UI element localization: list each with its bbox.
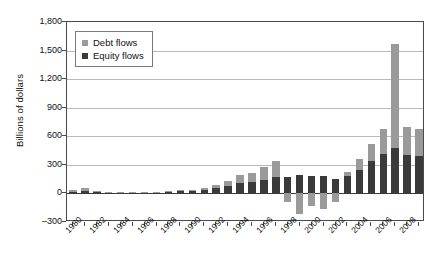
bar-segment-equity-flows bbox=[248, 182, 255, 193]
bar-group bbox=[236, 22, 243, 220]
bar-segment-equity-flows bbox=[212, 188, 219, 193]
bar-segment-debt-flows bbox=[177, 190, 184, 191]
y-tick-label: 300 bbox=[18, 159, 62, 168]
bar-segment-equity-flows bbox=[332, 179, 339, 194]
y-tick-label: 1,500 bbox=[18, 45, 62, 54]
bar-group bbox=[320, 22, 327, 220]
y-tick-mark bbox=[62, 21, 66, 22]
bar-segment-debt-flows bbox=[403, 127, 410, 156]
bar-segment-debt-flows bbox=[380, 129, 387, 154]
bar-segment-debt-flows bbox=[248, 173, 255, 182]
bar-group bbox=[403, 22, 410, 220]
bar-segment-debt-flows bbox=[284, 193, 291, 202]
y-tick-mark bbox=[62, 221, 66, 222]
chart-legend: Debt flows Equity flows bbox=[75, 31, 153, 67]
bar-segment-equity-flows bbox=[224, 186, 231, 194]
legend-item-debt-flows: Debt flows bbox=[82, 36, 144, 49]
bar-segment-equity-flows bbox=[380, 154, 387, 194]
bar-segment-equity-flows bbox=[368, 161, 375, 193]
bar-group bbox=[415, 22, 422, 220]
bar-group bbox=[165, 22, 172, 220]
bar-segment-debt-flows bbox=[320, 193, 327, 209]
bar-group bbox=[380, 22, 387, 220]
bar-segment-debt-flows bbox=[141, 192, 148, 193]
bar-segment-debt-flows bbox=[117, 192, 124, 193]
legend-label-equity-flows: Equity flows bbox=[93, 51, 144, 61]
bar-group bbox=[308, 22, 315, 220]
bar-segment-equity-flows bbox=[403, 155, 410, 193]
bar-segment-debt-flows bbox=[93, 191, 100, 192]
y-tick-mark bbox=[62, 50, 66, 51]
bar-segment-equity-flows bbox=[177, 191, 184, 193]
bar-group bbox=[177, 22, 184, 220]
bar-segment-equity-flows bbox=[320, 176, 327, 193]
y-tick-mark bbox=[62, 164, 66, 165]
bar-segment-debt-flows bbox=[105, 192, 112, 193]
bar-segment-debt-flows bbox=[296, 193, 303, 213]
y-tick-mark bbox=[62, 135, 66, 136]
bar-segment-debt-flows bbox=[272, 161, 279, 177]
bar-segment-debt-flows bbox=[129, 192, 136, 193]
legend-swatch-debt-flows bbox=[82, 40, 88, 46]
bar-group bbox=[356, 22, 363, 220]
bar-segment-equity-flows bbox=[308, 176, 315, 194]
y-tick-mark bbox=[62, 192, 66, 193]
bar-group bbox=[224, 22, 231, 220]
bar-segment-equity-flows bbox=[391, 148, 398, 193]
bar-segment-debt-flows bbox=[260, 167, 267, 179]
y-tick-label: 900 bbox=[18, 102, 62, 111]
bar-segment-equity-flows bbox=[284, 177, 291, 194]
y-tick-label: 0 bbox=[18, 188, 62, 197]
bar-group bbox=[332, 22, 339, 220]
bar-segment-equity-flows bbox=[296, 175, 303, 194]
bar-segment-equity-flows bbox=[93, 192, 100, 194]
bar-group bbox=[284, 22, 291, 220]
bar-segment-equity-flows bbox=[189, 191, 196, 194]
bar-group bbox=[260, 22, 267, 220]
bar-segment-equity-flows bbox=[272, 177, 279, 194]
legend-label-debt-flows: Debt flows bbox=[93, 38, 137, 48]
bar-segment-equity-flows bbox=[81, 191, 88, 194]
bar-segment-debt-flows bbox=[189, 190, 196, 191]
y-tick-mark bbox=[62, 78, 66, 79]
bar-segment-equity-flows bbox=[236, 183, 243, 193]
bar-segment-equity-flows bbox=[69, 192, 76, 194]
bar-group bbox=[296, 22, 303, 220]
bar-segment-debt-flows bbox=[308, 193, 315, 205]
bar-group bbox=[189, 22, 196, 220]
bar-segment-debt-flows bbox=[212, 185, 219, 188]
bar-segment-debt-flows bbox=[236, 175, 243, 183]
bar-segment-equity-flows bbox=[165, 192, 172, 194]
chart-figure: Billions of dollars 1,8001,5001,20090060… bbox=[0, 0, 438, 264]
bar-segment-equity-flows bbox=[415, 156, 422, 193]
bar-group bbox=[248, 22, 255, 220]
bar-group bbox=[368, 22, 375, 220]
y-axis-tick-labels: 1,8001,5001,2009006003000–300 bbox=[16, 0, 62, 264]
bar-segment-equity-flows bbox=[356, 170, 363, 194]
bar-segment-debt-flows bbox=[415, 129, 422, 157]
bar-group bbox=[153, 22, 160, 220]
bar-segment-debt-flows bbox=[69, 190, 76, 191]
bar-segment-equity-flows bbox=[201, 190, 208, 193]
bar-segment-debt-flows bbox=[224, 181, 231, 186]
y-tick-label: 1,200 bbox=[18, 74, 62, 83]
bar-group bbox=[391, 22, 398, 220]
y-tick-label: 600 bbox=[18, 131, 62, 140]
y-tick-label: 1,800 bbox=[18, 17, 62, 26]
y-tick-mark bbox=[62, 107, 66, 108]
bar-group bbox=[344, 22, 351, 220]
bar-segment-debt-flows bbox=[165, 191, 172, 192]
bar-group bbox=[201, 22, 208, 220]
bar-group bbox=[212, 22, 219, 220]
bar-segment-debt-flows bbox=[391, 44, 398, 148]
legend-swatch-equity-flows bbox=[82, 53, 88, 59]
legend-item-equity-flows: Equity flows bbox=[82, 49, 144, 62]
bar-group bbox=[272, 22, 279, 220]
x-axis-tick-labels: 1980198219841986198819901992199419961998… bbox=[0, 226, 438, 264]
bar-segment-debt-flows bbox=[368, 144, 375, 161]
bar-segment-equity-flows bbox=[344, 176, 351, 193]
bar-segment-debt-flows bbox=[344, 172, 351, 176]
bar-segment-debt-flows bbox=[201, 188, 208, 190]
bar-segment-debt-flows bbox=[81, 188, 88, 190]
y-tick-label: –300 bbox=[18, 217, 62, 226]
